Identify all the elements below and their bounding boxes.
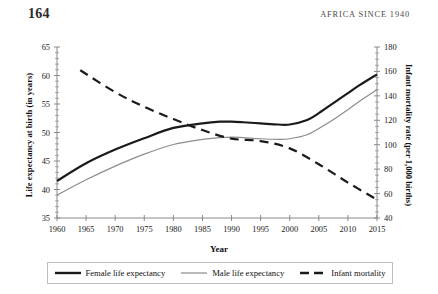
chart-series-line	[57, 74, 377, 181]
y-axis-left-tick-label: 40	[42, 186, 50, 195]
legend-item: Male life expectancy	[181, 269, 284, 278]
chart-series-line	[80, 70, 377, 199]
y-axis-right-tick-label: 180	[384, 43, 397, 52]
page-number: 164	[28, 6, 50, 22]
x-axis-tick-label: 2000	[281, 225, 298, 234]
y-axis-right-title: Infant mortality rate (per 1,000 births)	[404, 40, 414, 230]
x-axis-tick-label: 2005	[310, 225, 327, 234]
x-axis-title: Year	[0, 244, 438, 254]
page-root: 164 AFRICA SINCE 1940 196019651970197519…	[0, 0, 438, 294]
x-axis-tick-label: 1985	[194, 225, 211, 234]
y-axis-right-tick-label: 80	[384, 165, 392, 174]
x-axis-tick-label: 1960	[49, 225, 66, 234]
y-axis-right-tick-label: 40	[384, 214, 392, 223]
legend-swatch-3	[300, 269, 326, 277]
figure-container: 1960196519701975198019851990199520002005…	[0, 26, 438, 294]
legend-label: Female life expectancy	[86, 269, 166, 278]
x-axis-tick-label: 1990	[223, 225, 240, 234]
y-axis-left-tick-label: 60	[42, 72, 50, 81]
y-axis-right-tick-label: 60	[384, 190, 392, 199]
x-axis-tick-label: 1980	[165, 225, 182, 234]
x-axis-tick-label: 1970	[107, 225, 124, 234]
x-axis-tick-label: 2015	[369, 225, 386, 234]
legend-label: Infant mortality	[331, 269, 385, 278]
legend-swatch-2	[181, 269, 207, 277]
y-axis-left-tick-label: 45	[42, 157, 50, 166]
chart-legend: Female life expectancyMale life expectan…	[47, 262, 393, 284]
y-axis-right-tick-label: 100	[384, 141, 397, 150]
y-axis-left-tick-label: 55	[42, 100, 50, 109]
y-axis-right-tick-label: 140	[384, 92, 397, 101]
y-axis-left-tick-label: 65	[42, 43, 50, 52]
y-axis-left-tick-label: 35	[42, 214, 50, 223]
legend-label: Male life expectancy	[212, 269, 284, 278]
book-running-title: AFRICA SINCE 1940	[320, 10, 410, 19]
y-axis-right-tick-label: 120	[384, 116, 397, 125]
y-axis-left-title: Life expectancy at birth (in years)	[24, 40, 34, 230]
y-axis-left-tick-label: 50	[42, 129, 50, 138]
legend-item: Female life expectancy	[55, 269, 166, 278]
legend-swatch-1	[55, 269, 81, 277]
x-axis-tick-label: 1975	[136, 225, 153, 234]
y-axis-right-tick-label: 160	[384, 67, 397, 76]
x-axis-tick-label: 1965	[78, 225, 95, 234]
legend-item: Infant mortality	[300, 269, 385, 278]
x-axis-tick-label: 1995	[252, 225, 269, 234]
x-axis-tick-label: 2010	[340, 225, 357, 234]
